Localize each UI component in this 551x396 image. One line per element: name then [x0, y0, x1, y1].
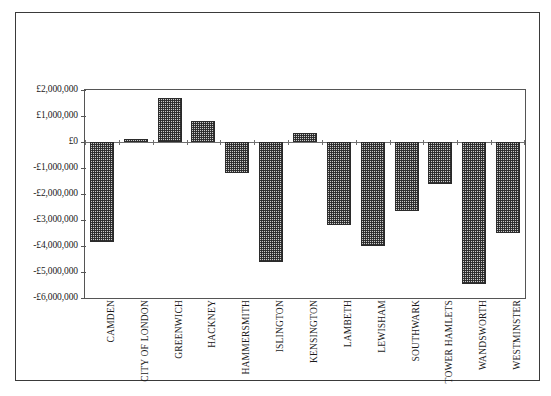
x-axis-tick-label: LEWISHAM [377, 300, 388, 386]
plot-area [84, 89, 526, 299]
bar [361, 142, 385, 246]
bar [293, 133, 317, 142]
x-axis-tick-label: KENSINGTON [309, 300, 320, 386]
y-axis-tick-label: -£6,000,000 [33, 292, 78, 302]
y-axis-tick-label: -£3,000,000 [33, 214, 78, 224]
x-axis-tick-label: WESTMINSTER [512, 300, 523, 386]
y-axis-tick-mark [81, 298, 86, 299]
bar [327, 142, 351, 225]
x-axis-tick-label: CITY OF LONDON [140, 300, 151, 386]
bar [462, 142, 486, 284]
y-axis-tick-mark [81, 194, 86, 195]
x-axis-tick-mark [187, 140, 188, 145]
x-axis-tick-label: LAMBETH [343, 300, 354, 386]
x-axis-tick-mark [322, 140, 323, 145]
y-axis-tick-label: -£5,000,000 [33, 266, 78, 276]
y-axis-tick-label: -£2,000,000 [33, 188, 78, 198]
x-axis-tick-label: HAMMERSMITH [241, 300, 252, 386]
y-axis-labels: £2,000,000£1,000,000£0-£1,000,000-£2,000… [16, 83, 82, 308]
bar [124, 139, 148, 142]
bar [191, 121, 215, 142]
x-axis-tick-label: CAMDEN [106, 300, 117, 386]
y-axis-tick-label: £0 [69, 136, 78, 146]
x-axis-tick-label: GREENWICH [174, 300, 185, 386]
y-axis-tick-mark [81, 90, 86, 91]
x-axis-tick-mark [491, 140, 492, 145]
y-axis-tick-label: £1,000,000 [36, 110, 78, 120]
x-axis-labels: CAMDENCITY OF LONDONGREENWICHHACKNEYHAMM… [84, 300, 526, 392]
bar [90, 142, 114, 242]
x-axis-tick-mark [119, 140, 120, 145]
x-axis-tick-label: HACKNEY [207, 300, 218, 386]
x-axis-tick-mark [254, 140, 255, 145]
y-axis-tick-mark [81, 272, 86, 273]
bar [225, 142, 249, 173]
bar [496, 142, 520, 233]
x-axis-tick-mark [390, 140, 391, 145]
bar [158, 98, 182, 142]
x-axis-tick-mark [423, 140, 424, 145]
x-axis-tick-mark [85, 140, 86, 145]
chart-frame: £2,000,000£1,000,000£0-£1,000,000-£2,000… [15, 12, 540, 381]
x-axis-tick-mark [356, 140, 357, 145]
y-axis-tick-mark [81, 246, 86, 247]
x-axis-tick-mark [153, 140, 154, 145]
x-axis-tick-label: ISLINGTON [275, 300, 286, 386]
x-axis-tick-mark [220, 140, 221, 145]
y-axis-tick-mark [81, 116, 86, 117]
zero-baseline [85, 142, 525, 143]
bar [259, 142, 283, 262]
y-axis-tick-label: -£1,000,000 [33, 162, 78, 172]
y-axis-tick-label: -£4,000,000 [33, 240, 78, 250]
y-axis-tick-label: £2,000,000 [36, 84, 78, 94]
x-axis-tick-mark [524, 140, 525, 145]
x-axis-tick-mark [288, 140, 289, 145]
bar [428, 142, 452, 184]
x-axis-tick-label: SOUTHWARK [411, 300, 422, 386]
x-axis-tick-label: TOWER HAMLETS [444, 300, 455, 386]
y-axis-tick-mark [81, 168, 86, 169]
x-axis-tick-mark [457, 140, 458, 145]
bar [395, 142, 419, 211]
x-axis-tick-label: WANDSWORTH [478, 300, 489, 386]
y-axis-tick-mark [81, 220, 86, 221]
